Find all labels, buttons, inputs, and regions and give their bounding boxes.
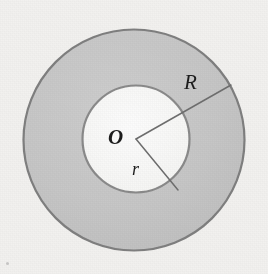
inner-radius-label-r: r: [132, 160, 139, 178]
outer-radius-label-R: R: [184, 72, 197, 93]
annulus-figure: O R r: [0, 0, 268, 274]
center-label-o: O: [108, 127, 123, 148]
annulus-diagram-svg: [0, 0, 268, 274]
